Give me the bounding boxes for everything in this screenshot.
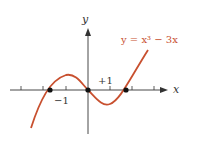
x-axis-label: x [173,83,180,96]
tick-label-plus-one: +1 [98,75,113,86]
root-point [85,87,90,92]
y-axis-arrow-icon [85,28,91,36]
cubic-function-graph: y x +1 −1 y = x³ − 3x [0,0,200,142]
y-axis-label: y [81,13,89,26]
tick-label-minus-one: −1 [54,95,69,106]
root-point [47,87,52,92]
x-axis-arrow-icon [160,87,168,93]
root-point [123,87,128,92]
equation-label: y = x³ − 3x [120,34,178,45]
